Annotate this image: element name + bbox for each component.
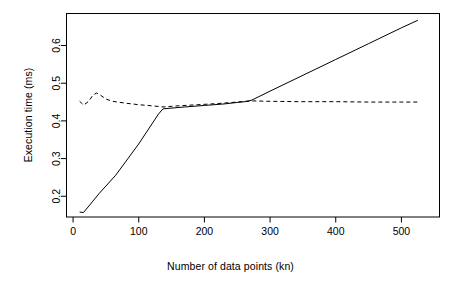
x-tick-label: 100 [130,225,148,237]
y-axis-title: Execution time (ms) [22,13,34,217]
plot-box-border [67,14,440,218]
chart-figure: 0100200300400500 0.20.30.40.50.6 Number … [0,0,461,285]
x-tick-label: 400 [327,225,345,237]
y-tick-label: 0.4 [50,113,62,128]
series-line-solid [80,20,418,212]
x-tick-label: 200 [196,225,214,237]
x-axis-tick-labels: 0100200300400500 [70,225,410,237]
x-tick-label: 300 [261,225,279,237]
chart-plot-area: 0100200300400500 0.20.30.40.50.6 [0,0,461,285]
x-tick-label: 0 [70,225,76,237]
y-tick-label: 0.6 [50,38,62,53]
y-axis-tick-labels: 0.20.30.40.50.6 [50,38,62,203]
x-axis-ticks [73,217,401,223]
series-line-dashed [80,93,418,107]
y-tick-label: 0.3 [50,151,62,166]
y-tick-label: 0.2 [50,189,62,204]
y-tick-label: 0.5 [50,76,62,91]
x-axis-title: Number of data points (kn) [0,260,461,272]
x-tick-label: 500 [393,225,411,237]
data-series-group [80,20,418,212]
